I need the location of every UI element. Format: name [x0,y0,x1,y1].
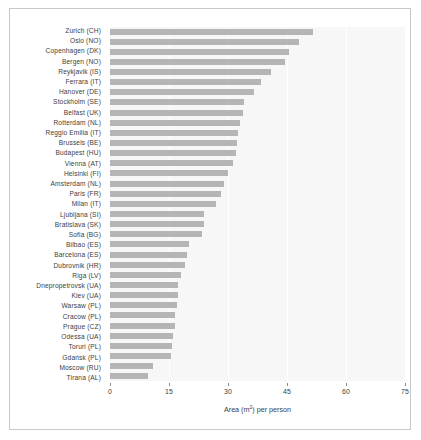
category-label: Zurich (CH) [18,27,101,34]
bar-row [110,200,405,207]
x-tick-label: 60 [342,388,350,395]
category-label: Helsinki (FI) [18,170,101,177]
category-label: Cracow (PL) [18,313,101,320]
bar [110,302,177,308]
category-label: Warsaw (PL) [18,302,101,309]
x-tick-label: 45 [283,388,291,395]
bar-row [110,231,405,238]
category-label: Kiev (UA) [18,292,101,299]
category-label: Toruri (PL) [18,343,101,350]
x-tick [405,383,406,386]
category-label: Copenhagen (DK) [18,47,101,54]
bar [110,323,175,329]
bar-row [110,99,405,106]
bar [110,160,233,166]
bar [110,221,204,227]
category-label: Bergen (NO) [18,58,101,65]
bar-row [110,312,405,319]
chart-figure: Zurich (CH)Oslo (NO)Copenhagen (DK)Berge… [0,0,421,440]
bar-row [110,221,405,228]
category-label: Paris (FR) [18,190,101,197]
category-label: Gdańsk (PL) [18,354,101,361]
bar [110,262,185,268]
x-tick-label: 15 [165,388,173,395]
bar-row [110,271,405,278]
bar-row [110,190,405,197]
bar-row [110,119,405,126]
plot-wrapper: Zurich (CH)Oslo (NO)Copenhagen (DK)Berge… [10,9,410,429]
category-label: Riga (LV) [18,272,101,279]
bar [110,69,271,75]
category-label: Hanover (DE) [18,88,101,95]
x-tick [110,383,111,386]
bar [110,29,313,35]
bar-row [110,373,405,380]
bar-row [110,109,405,116]
bar [110,110,243,116]
bar-row [110,38,405,45]
bar-row [110,363,405,370]
x-tick-label: 0 [108,388,112,395]
bar [110,130,238,136]
x-axis: 01530456075 [110,383,405,384]
bar [110,373,148,379]
bar-series [110,27,405,381]
category-label: Dubrovnik (HR) [18,262,101,269]
category-label: Belfast (UK) [18,109,101,116]
bar-row [110,282,405,289]
bar-row [110,129,405,136]
x-tick-label: 30 [224,388,232,395]
bar-row [110,211,405,218]
bar-row [110,140,405,147]
category-label: Odessa (UA) [18,333,101,340]
x-tick [169,383,170,386]
x-tick [228,383,229,386]
bar [110,333,173,339]
bar [110,79,261,85]
bar [110,211,204,217]
bar [110,231,202,237]
bar [110,150,236,156]
category-label: Bilbao (ES) [18,241,101,248]
bar [110,343,172,349]
bar-row [110,292,405,299]
category-label: Rotterdam (NL) [18,119,101,126]
bar-row [110,332,405,339]
category-label: Dnepropetrovsk (UA) [18,282,101,289]
bar [110,191,221,197]
bar-row [110,58,405,65]
bar-row [110,241,405,248]
bar [110,363,153,369]
category-label: Sofia (BG) [18,231,101,238]
bar-row [110,69,405,76]
plot-area [110,27,405,381]
bar [110,292,178,298]
bar [110,181,224,187]
bar [110,241,189,247]
bar-row [110,89,405,96]
category-label: Barcelona (ES) [18,251,101,258]
bar [110,282,178,288]
bar [110,170,228,176]
bar [110,59,285,65]
bar [110,49,289,55]
category-label: Stockholm (SE) [18,98,101,105]
category-label: Oslo (NO) [18,37,101,44]
gridline [405,27,406,381]
category-label: Ljubljana (SI) [18,211,101,218]
bar-row [110,160,405,167]
x-tick-label: 75 [401,388,409,395]
bar-row [110,302,405,309]
category-label: Amsterdam (NL) [18,180,101,187]
category-label: Brussels (BE) [18,139,101,146]
category-label: Ferrara (IT) [18,78,101,85]
category-axis-labels: Zurich (CH)Oslo (NO)Copenhagen (DK)Berge… [18,27,101,381]
bar-row [110,353,405,360]
bar-row [110,28,405,35]
bar [110,353,171,359]
bar [110,140,237,146]
category-label: Moscow (RU) [18,364,101,371]
bar-row [110,170,405,177]
x-tick [287,383,288,386]
category-label: Budapest (HU) [18,149,101,156]
